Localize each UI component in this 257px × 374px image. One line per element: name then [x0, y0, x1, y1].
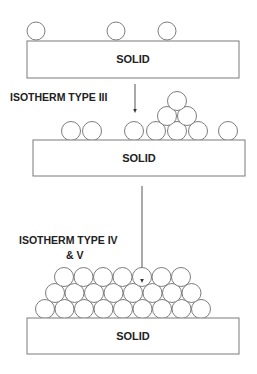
panel-isotherm-type-iii: ISOTHERM TYPE III SOLID [10, 84, 245, 176]
molecule-circle [74, 268, 93, 287]
isotherm-type-v-label: & V [66, 249, 84, 261]
solid-label: SOLID [116, 330, 150, 342]
molecule-circle [107, 22, 125, 40]
molecule-circle [83, 122, 102, 141]
panel-isotherm-type-iv-v: ISOTHERM TYPE IV & V SOLID [19, 186, 239, 354]
solid-label: SOLID [122, 152, 156, 164]
arrow-down-icon [133, 109, 137, 113]
molecule-circle [158, 22, 176, 40]
molecule-circle [113, 268, 132, 287]
panel-sparse-monolayer: SOLID [27, 22, 239, 78]
molecule-circle [219, 122, 238, 141]
molecule-circle [182, 284, 201, 303]
isotherm-type-iv-label: ISOTHERM TYPE IV [19, 234, 118, 246]
adsorbed-molecules [27, 22, 176, 40]
solid-label: SOLID [116, 53, 150, 65]
molecule-circle [168, 92, 187, 111]
molecule-circle [152, 268, 171, 287]
molecule-circle [27, 22, 45, 40]
molecule-circle [172, 268, 191, 287]
adsorbed-multilayer [36, 268, 211, 319]
molecule-circle [62, 122, 81, 141]
molecule-circle [55, 268, 74, 287]
molecule-circle [94, 268, 113, 287]
adsorption-diagram: SOLID ISOTHERM TYPE III SOLID ISOTHERM T… [0, 0, 257, 374]
molecule-circle [125, 122, 144, 141]
molecule-circle [133, 268, 152, 287]
isotherm-type-iii-label: ISOTHERM TYPE III [10, 91, 108, 103]
